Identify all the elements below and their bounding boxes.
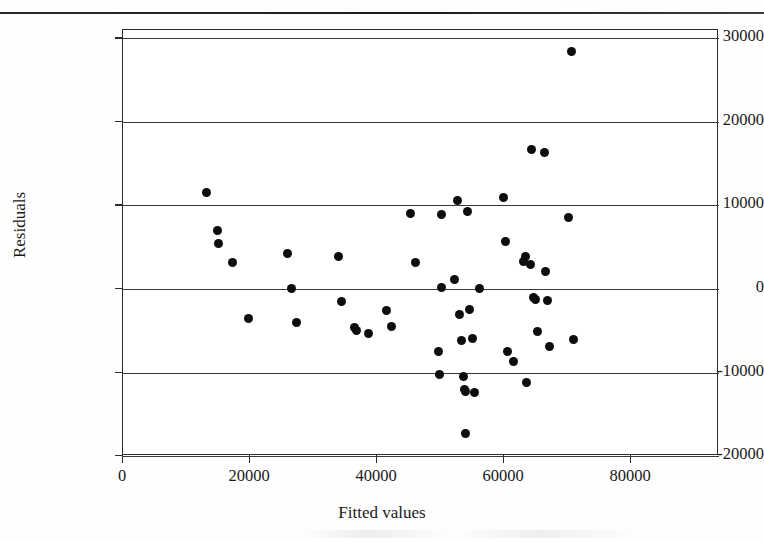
data-point: [543, 296, 552, 305]
x-tick-mark-80000: [630, 455, 631, 463]
figure-page: -20000-100000100002000030000 Residuals 0…: [0, 0, 764, 542]
data-point: [457, 336, 466, 345]
data-point: [475, 284, 484, 293]
y-tick-mark--10000: [115, 372, 122, 373]
y-tick-mark--20000: [115, 455, 122, 456]
data-point: [411, 258, 420, 267]
data-point: [527, 145, 536, 154]
data-point: [406, 209, 415, 218]
data-point: [437, 210, 446, 219]
data-point: [533, 327, 542, 336]
data-point: [461, 429, 470, 438]
x-tick-label-60000: 60000: [443, 466, 563, 486]
gridline-20000: [123, 122, 719, 123]
data-point: [364, 329, 373, 338]
x-tick-mark-40000: [376, 455, 377, 463]
data-point: [202, 188, 211, 197]
data-point: [459, 372, 468, 381]
y-tick-label-20000: 20000: [656, 110, 764, 130]
x-tick-label-40000: 40000: [316, 466, 436, 486]
gridline--10000: [123, 373, 719, 374]
data-point: [470, 388, 479, 397]
data-point: [503, 347, 512, 356]
x-tick-label-0: 0: [62, 466, 182, 486]
data-point: [522, 378, 531, 387]
data-point: [531, 295, 540, 304]
y-tick-label-10000: 10000: [656, 193, 764, 213]
data-point: [337, 297, 346, 306]
data-point: [334, 252, 343, 261]
x-tick-mark-60000: [503, 455, 504, 463]
x-tick-mark-20000: [249, 455, 250, 463]
data-point: [463, 207, 472, 216]
data-point: [292, 318, 301, 327]
y-tick-label-30000: 30000: [656, 26, 764, 46]
y-tick-label--10000: -10000: [656, 361, 764, 381]
x-tick-label-20000: 20000: [189, 466, 309, 486]
data-point: [213, 226, 222, 235]
y-tick-mark-0: [115, 288, 122, 289]
data-point: [540, 148, 549, 157]
data-point: [387, 322, 396, 331]
data-point: [461, 387, 470, 396]
y-tick-mark-10000: [115, 204, 122, 205]
y-tick-mark-20000: [115, 121, 122, 122]
scan-artifact: [300, 530, 640, 538]
data-point: [287, 284, 296, 293]
gridline-30000: [123, 38, 719, 39]
data-point: [352, 326, 361, 335]
data-point: [541, 267, 550, 276]
gridline-10000: [123, 205, 719, 206]
header-divider-rule: [0, 12, 764, 14]
plot-area: [122, 29, 718, 455]
data-point: [434, 347, 443, 356]
data-point: [382, 306, 391, 315]
data-point: [453, 196, 462, 205]
data-point: [468, 334, 477, 343]
data-point: [569, 335, 578, 344]
data-point: [567, 47, 576, 56]
data-point: [509, 357, 518, 366]
y-axis-label: Residuals: [10, 145, 30, 305]
data-point: [244, 314, 253, 323]
x-axis-label: Fitted values: [0, 503, 764, 523]
y-tick-label--20000: -20000: [656, 444, 764, 464]
data-point: [435, 370, 444, 379]
y-tick-label-0: 0: [656, 277, 764, 297]
gridline-0: [123, 289, 719, 290]
data-point: [545, 342, 554, 351]
y-tick-mark-30000: [115, 37, 122, 38]
data-point: [501, 237, 510, 246]
data-point: [214, 239, 223, 248]
x-tick-mark-0: [122, 455, 123, 463]
data-point: [499, 193, 508, 202]
data-point: [526, 260, 535, 269]
data-point: [455, 310, 464, 319]
data-point: [437, 283, 446, 292]
x-tick-label-80000: 80000: [570, 466, 690, 486]
data-point: [564, 213, 573, 222]
data-point: [228, 258, 237, 267]
data-point: [283, 249, 292, 258]
data-point: [465, 305, 474, 314]
data-point: [450, 275, 459, 284]
